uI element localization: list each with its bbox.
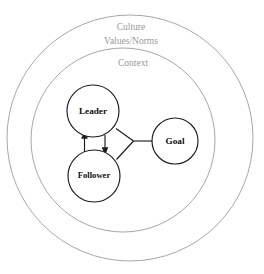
follower-label: Follower (78, 170, 111, 180)
connector-follower-to-junction (117, 141, 134, 160)
node-leader[interactable]: Leader (67, 85, 119, 137)
goal-label: Goal (166, 136, 185, 146)
culture-ring-label-line1: Culture (117, 22, 146, 32)
diagram-canvas: Culture Values/Norms Context Leader Foll… (0, 0, 264, 274)
leadership-context-diagram: Culture Values/Norms Context Leader Foll… (0, 0, 264, 274)
node-goal[interactable]: Goal (152, 118, 198, 164)
node-follower[interactable]: Follower (68, 150, 120, 202)
leader-label: Leader (79, 106, 107, 116)
culture-ring-label-line2: Values/Norms (104, 36, 158, 46)
connector-leader-to-junction (116, 129, 134, 142)
context-ring-label: Context (118, 58, 148, 68)
